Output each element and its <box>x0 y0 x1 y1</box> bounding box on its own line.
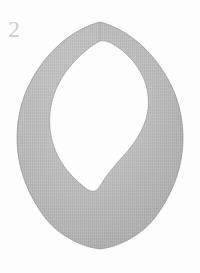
collar-illustration <box>0 0 200 273</box>
figure-canvas: 2 <box>0 0 200 273</box>
figure-number-label: 2 <box>8 17 20 41</box>
